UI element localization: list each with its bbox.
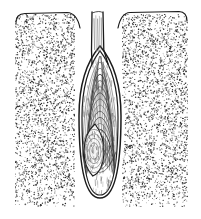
figure-root: Longitudinal section of an elongate tear… [0, 0, 201, 219]
illustration-canvas [0, 0, 201, 219]
